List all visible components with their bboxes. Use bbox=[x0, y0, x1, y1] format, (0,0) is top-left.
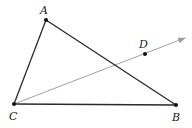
label-c: C bbox=[9, 110, 18, 123]
label-a: A bbox=[39, 4, 48, 17]
point-a bbox=[44, 18, 48, 22]
point-d bbox=[143, 52, 147, 56]
geometry-figure: A B C D bbox=[0, 0, 192, 128]
label-d: D bbox=[138, 38, 148, 51]
point-b bbox=[174, 103, 178, 107]
segment-cb bbox=[14, 104, 176, 105]
segment-ac bbox=[14, 20, 46, 104]
point-c bbox=[12, 102, 16, 106]
segment-ab bbox=[46, 20, 176, 105]
triangle-diagram: A B C D bbox=[0, 0, 192, 128]
label-b: B bbox=[171, 111, 180, 124]
